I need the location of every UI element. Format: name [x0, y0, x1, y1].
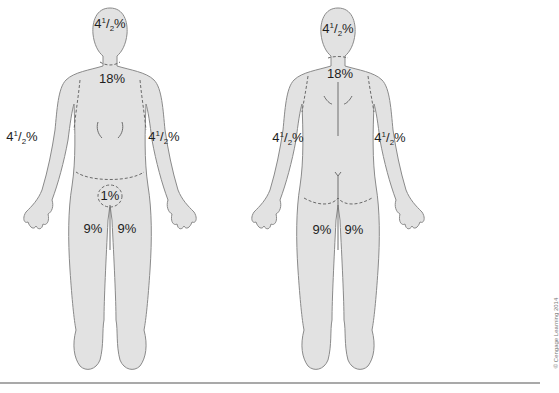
anterior-left-leg-label: 9%: [118, 221, 137, 236]
posterior-right-leg-label: 9%: [313, 222, 332, 237]
copyright-credit: © Cengage Learning 2014: [553, 298, 559, 368]
posterior-figure: [252, 8, 424, 369]
anterior-right-arm-label: 41/2%: [6, 129, 38, 146]
anterior-right-leg-label: 9%: [84, 221, 103, 236]
anterior-genital-label: 1%: [101, 188, 120, 203]
anterior-trunk-label: 18%: [99, 71, 125, 86]
posterior-trunk-label: 18%: [327, 66, 353, 81]
posterior-left-leg-label: 9%: [345, 222, 364, 237]
